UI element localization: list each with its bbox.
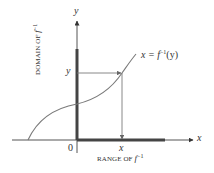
curve-label-lhs: x = f (141, 49, 160, 60)
range-label-sup: −1 (137, 153, 144, 159)
y-axis-label: y (74, 6, 78, 16)
curve-label-rhs: (y) (166, 49, 178, 60)
range-label: RANGE OF f−1 (97, 153, 144, 163)
domain-label-prefix: DOMAIN OF (34, 33, 42, 75)
curve-label: x = f−1(y) (141, 49, 178, 60)
domain-label-func: f (32, 30, 42, 33)
domain-label-sup: −1 (32, 24, 38, 31)
y-value-label: y (66, 66, 70, 76)
x-axis-label: x (197, 133, 201, 143)
range-label-prefix: RANGE OF (97, 155, 134, 163)
origin-label: 0 (68, 143, 73, 153)
inverse-function-diagram: y x 0 y x x = f−1(y) DOMAIN OF f−1 RANGE… (0, 0, 214, 173)
domain-label: DOMAIN OF f−1 (32, 24, 42, 75)
x-value-label: x (119, 143, 123, 153)
inverse-function-curve (28, 54, 136, 140)
